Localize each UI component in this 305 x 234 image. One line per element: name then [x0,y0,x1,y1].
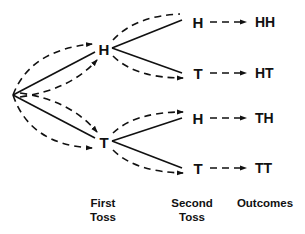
second-toss-label: Second Toss [171,196,213,224]
branch-t-to-t [112,141,182,168]
outcomes-label-text: Outcomes [237,196,293,210]
first-toss-label-line1: First [90,196,116,210]
first-toss-heads-node: H [99,42,110,57]
branch-h-to-t [112,48,182,73]
second-toss-label-line2: Toss [171,210,213,224]
outcome-ht: HT [255,66,274,80]
first-toss-label-line2: Toss [90,210,116,224]
dashed-arc-h-t [113,56,183,78]
second-toss-ht-node: T [193,66,202,81]
second-toss-label-line1: Second [171,196,213,210]
dashed-arc-h-h [113,14,180,40]
branch-h-to-h [112,20,182,48]
second-toss-hh-node: H [193,15,204,30]
dashed-arc-root-h-outer [13,44,92,95]
branch-root-to-t [13,95,95,138]
outcome-th: TH [255,111,274,125]
first-toss-tails-node: T [99,135,108,150]
second-toss-tt-node: T [193,161,202,176]
outcome-tt: TT [255,161,272,175]
dashed-arc-root-h-inner [20,60,97,97]
dashed-arc-root-t-outer [13,95,92,148]
outcomes-label: Outcomes [237,196,293,210]
dashed-arc-t-t [113,150,183,173]
first-toss-label: First Toss [90,196,116,224]
outcome-hh: HH [255,15,275,29]
second-toss-th-node: H [193,111,204,126]
branch-t-to-h [112,118,182,141]
